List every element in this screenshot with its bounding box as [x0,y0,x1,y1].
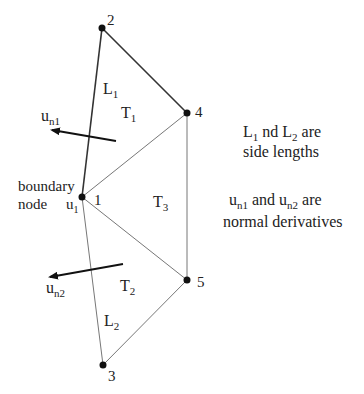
node-1-dot [79,194,86,201]
node-5-dot [184,277,191,284]
node-label-2: 2 [107,12,115,28]
triangle-label-T3: T3 [153,193,169,213]
normal-arrow-un2 [50,264,123,277]
normal-label-un1: un1 [41,107,60,127]
note-normal-derivatives-line2: normal derivatives [223,213,343,230]
note-normal-derivatives-line1: un1 and un2 are [229,191,322,211]
node-2-dot [99,25,106,32]
node-label-3: 3 [108,368,116,384]
node-label-4: 4 [195,104,203,120]
note-side-lengths-line2: side lengths [243,143,319,161]
edge-1-2 [82,28,102,197]
edge-1-3 [82,197,103,365]
side-label-L2: L2 [104,312,119,332]
boundary-node-label-line1: boundary [18,178,75,194]
side-label-L1: L1 [103,80,118,100]
boundary-node-value: u1 [66,196,79,215]
normal-arrow-un1 [52,130,116,141]
edge-1-4 [82,113,187,197]
edge-2-4 [102,28,187,113]
note-side-lengths-line1: L1 nd L2 are [243,123,321,143]
mesh-diagram: 2 4 1 5 3 L1 L2 T1 T3 T2 un1 un2 boundar… [0,0,364,394]
node-4-dot [184,110,191,117]
node-3-dot [100,362,107,369]
node-label-5: 5 [197,274,205,290]
triangle-label-T1: T1 [121,104,136,124]
node-label-1: 1 [94,192,102,208]
triangle-label-T2: T2 [120,277,135,297]
normal-label-un2: un2 [46,279,65,299]
edge-1-5 [82,197,187,280]
boundary-node-label-line2: node [18,196,48,212]
